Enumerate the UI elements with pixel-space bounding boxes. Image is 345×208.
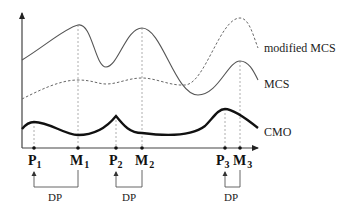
label-m3: M3 bbox=[233, 153, 252, 170]
cmo-curve bbox=[22, 109, 258, 135]
dot-m1 bbox=[76, 146, 80, 150]
label-p1: P1 bbox=[28, 153, 42, 170]
dot-p3 bbox=[223, 146, 227, 150]
dp-bracket-2 bbox=[116, 170, 142, 187]
diagram-canvas: modified MCS MCS CMO P1 M1 P2 M2 P3 M3 D… bbox=[0, 0, 345, 208]
label-m1: M1 bbox=[70, 153, 89, 170]
mcs-curve bbox=[22, 25, 258, 95]
label-modified-mcs: modified MCS bbox=[264, 41, 336, 55]
label-p3: P3 bbox=[216, 153, 230, 170]
dp-bracket-3 bbox=[225, 170, 240, 187]
dot-p2 bbox=[114, 146, 118, 150]
label-cmo: CMO bbox=[264, 125, 292, 139]
dot-m3 bbox=[238, 146, 242, 150]
modified-mcs-curve bbox=[22, 18, 258, 99]
label-mcs: MCS bbox=[264, 77, 289, 91]
guide-lines bbox=[34, 25, 240, 148]
dp-bracket-1 bbox=[34, 170, 78, 187]
dot-p1 bbox=[32, 146, 36, 150]
dp-label-1: DP bbox=[48, 191, 62, 203]
dp-label-2: DP bbox=[122, 191, 136, 203]
label-p2: P2 bbox=[109, 153, 123, 170]
dp-label-3: DP bbox=[224, 191, 238, 203]
label-m2: M2 bbox=[135, 153, 154, 170]
dot-m2 bbox=[140, 146, 144, 150]
